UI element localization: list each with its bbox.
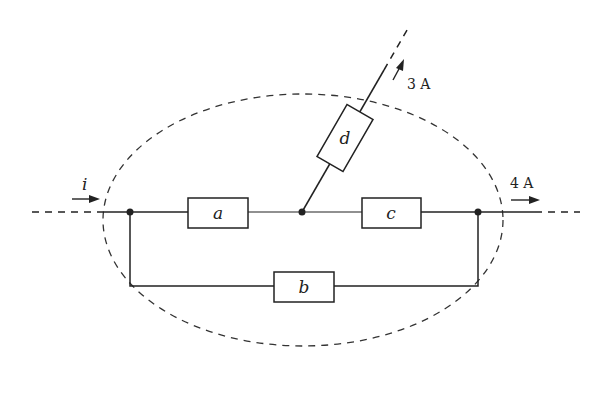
element-c: c bbox=[362, 198, 421, 228]
node-right bbox=[475, 209, 482, 216]
svg-text:b: b bbox=[299, 277, 310, 297]
gaussian-surface-ellipse bbox=[103, 94, 503, 346]
svg-text:a: a bbox=[213, 203, 223, 223]
svg-text:d: d bbox=[340, 128, 351, 148]
output-top-current-label: 3 A bbox=[407, 76, 431, 92]
diagonal-lead-dashed bbox=[384, 25, 410, 70]
element-a: a bbox=[188, 198, 248, 228]
node-left bbox=[127, 209, 134, 216]
output-right-current-label: 4 A bbox=[510, 175, 534, 191]
element-d: d bbox=[317, 105, 373, 172]
node-center bbox=[299, 209, 306, 216]
input-current-arrow-icon bbox=[72, 195, 100, 203]
output-right-current-arrow-icon bbox=[511, 196, 540, 204]
svg-text:c: c bbox=[386, 203, 396, 223]
circuit-diagram: a c b d i 4 A 3 A bbox=[0, 0, 604, 396]
input-current-label: i bbox=[82, 174, 87, 194]
output-top-current-arrow-icon bbox=[393, 59, 404, 80]
element-b: b bbox=[274, 272, 334, 302]
